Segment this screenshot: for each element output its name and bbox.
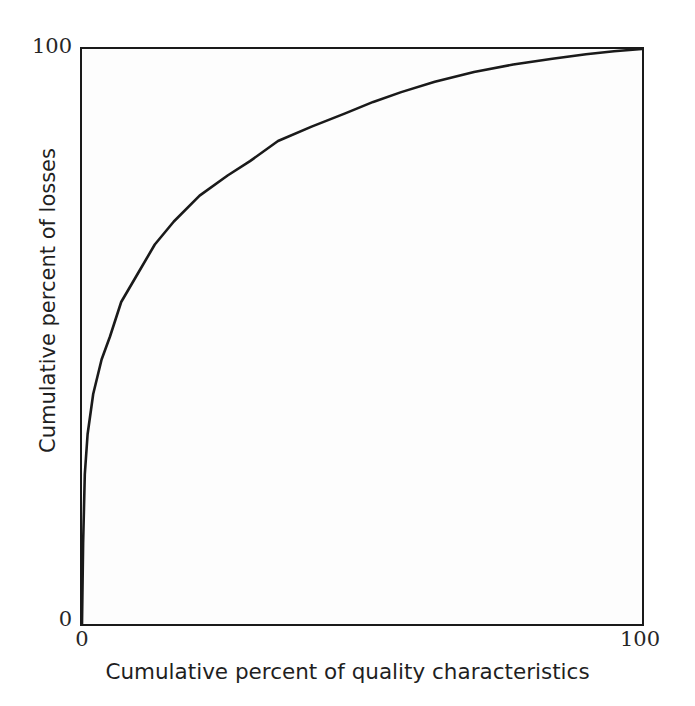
curve-polyline xyxy=(82,49,642,624)
x-axis-tick-100: 100 xyxy=(612,629,668,650)
y-axis-title: Cumulative percent of losses xyxy=(38,141,59,461)
chart-figure: 100 0 0 100 Cumulative percent of losses… xyxy=(0,0,695,706)
y-axis-tick-0: 0 xyxy=(0,609,72,630)
x-axis-title: Cumulative percent of quality characteri… xyxy=(0,661,695,683)
y-axis-tick-100: 100 xyxy=(0,36,72,57)
x-axis-tick-0: 0 xyxy=(72,629,92,650)
plot-area xyxy=(80,47,644,626)
cumulative-loss-curve xyxy=(82,49,642,624)
